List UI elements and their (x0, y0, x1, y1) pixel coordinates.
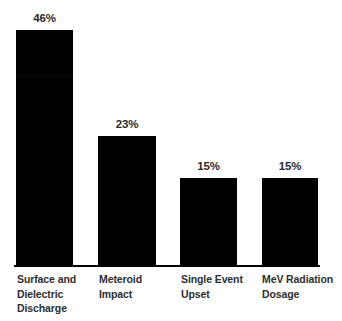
category-label-line: Dielectric (17, 287, 76, 302)
bar-meteroid-impact (98, 136, 156, 266)
category-label-line: Meteroid (99, 272, 142, 287)
category-label-single-event-upset: Single Event Upset (181, 272, 243, 301)
category-label-line: Surface and (17, 272, 76, 287)
category-label-meteroid-impact: Meteroid Impact (99, 272, 142, 301)
category-label-mev-radiation-dosage: MeV Radiation Dosage (262, 272, 333, 301)
category-label-line: Single Event (181, 272, 243, 287)
bar-chart: 46% 23% 15% 15% Surface and Dielectric D… (0, 0, 342, 321)
category-label-line: Dosage (262, 287, 333, 302)
bar-value-label-1: 46% (16, 12, 73, 25)
bar-surface-and-dielectric-discharge (16, 30, 73, 266)
bar-value-label-2: 23% (98, 118, 156, 131)
bar-single-event-upset (180, 178, 237, 266)
bar-value-label-3: 15% (180, 160, 237, 173)
category-label-surface-and-dielectric-discharge: Surface and Dielectric Discharge (17, 272, 76, 316)
category-label-line: Upset (181, 287, 243, 302)
bar-mev-radiation-dosage (262, 178, 318, 266)
x-axis-category-labels: Surface and Dielectric Discharge Meteroi… (0, 268, 342, 321)
bar-inner-gridline (16, 76, 73, 77)
category-label-line: Discharge (17, 301, 76, 316)
category-label-line: Impact (99, 287, 142, 302)
category-label-line: MeV Radiation (262, 272, 333, 287)
bar-value-label-4: 15% (262, 160, 318, 173)
x-axis-line (14, 265, 320, 267)
plot-area: 46% 23% 15% 15% (0, 0, 342, 267)
